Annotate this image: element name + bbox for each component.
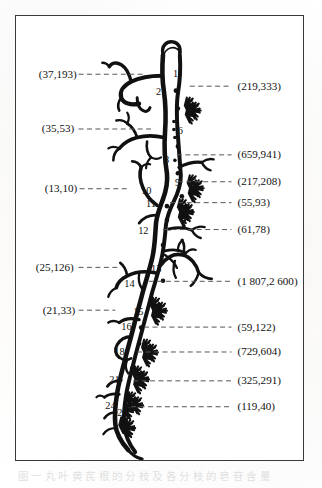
figure-caption-text: 图 一 丸 叶 黄 芪 根 的 分 枝 及 各 分 枝 的 皂 苷 含 量: [18, 470, 304, 483]
branch-node-24-label: 24: [105, 400, 115, 411]
coordinate-label-left-5: (21,33): [43, 304, 76, 317]
coordinate-label-right-1: (219,333): [237, 80, 281, 93]
branch-node-12-label: 12: [138, 225, 148, 236]
branch-node-11-label: 11: [146, 198, 156, 209]
branch-node-25-label: 25: [117, 407, 127, 418]
branch-node-16-label: 16: [121, 321, 131, 332]
coordinate-label-right-5: (61,78): [237, 223, 270, 236]
coordinate-label-right-9: (325,291): [237, 374, 281, 387]
figure-caption: 图 一 丸 叶 黄 芪 根 的 分 枝 及 各 分 枝 的 皂 苷 含 量: [18, 470, 304, 484]
coordinate-label-right-4: (55,93): [237, 196, 270, 209]
branch-node-9-label: 9: [175, 177, 180, 188]
figure-frame: (37,193)(35,53)(13,10)(25,126)(21,33) (2…: [15, 15, 304, 461]
branch-node-15-label: 15: [133, 306, 143, 317]
branch-node-14-label: 14: [124, 278, 134, 289]
coordinate-labels-left: (37,193)(35,53)(13,10)(25,126)(21,33): [36, 68, 78, 317]
coordinate-label-left-2: (35,53): [42, 122, 75, 135]
branch-node-21-label: 21: [109, 374, 119, 385]
rootlet-tufts: [119, 98, 203, 437]
coordinate-label-left-1: (37,193): [39, 68, 77, 81]
branch-node-6-label: 6: [178, 125, 183, 136]
root-diagram-canvas: (37,193)(35,53)(13,10)(25,126)(21,33) (2…: [16, 16, 303, 460]
coordinate-label-right-6: (1 807,2 600): [237, 275, 297, 288]
root-lateral-branches-mid-left: [108, 113, 164, 169]
coordinate-labels-right: (219,333)(659,941)(217,208)(55,93)(61,78…: [237, 80, 297, 414]
coordinate-label-right-2: (659,941): [237, 148, 281, 161]
coordinate-label-left-3: (13,10): [45, 182, 78, 195]
branch-node-18-label: 18: [114, 346, 124, 357]
coordinate-label-right-10: (119,40): [237, 400, 275, 413]
coordinate-label-left-4: (25,126): [36, 261, 74, 274]
branch-node-8-label: 8: [164, 154, 169, 165]
branch-node-10-label: 10: [141, 185, 151, 196]
branch-node-2-label: 2: [156, 86, 161, 97]
branch-node-13-label: 13: [151, 263, 161, 274]
coordinate-label-right-3: (217,208): [237, 175, 281, 188]
coordinate-label-right-8: (729,604): [237, 345, 281, 358]
branch-node-1-label: 1: [173, 68, 178, 79]
coordinate-label-right-7: (59,122): [237, 321, 275, 334]
root-lateral-branches-upper: [102, 63, 162, 112]
